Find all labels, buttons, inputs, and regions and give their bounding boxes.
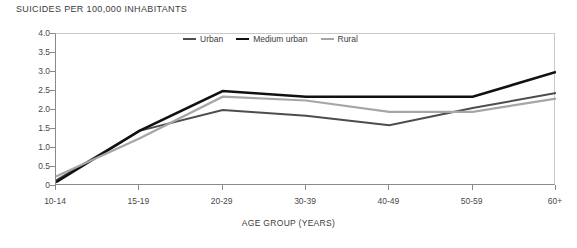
legend-label: Rural [338, 34, 358, 44]
y-tick-label: 1.5 [20, 123, 50, 133]
x-tick-mark [138, 185, 139, 190]
x-tick-label: 15-19 [127, 196, 149, 206]
x-tick-label: 10-14 [44, 196, 66, 206]
series-line [56, 72, 556, 182]
chart-legend: UrbanMedium urbanRural [183, 34, 358, 44]
series-lines [56, 34, 556, 186]
y-tick-label: 0.5 [20, 161, 50, 171]
legend-label: Urban [200, 34, 223, 44]
y-axis-labels: 00.51.01.52.02.53.03.54.0 [16, 33, 50, 185]
x-tick-label: 60+ [548, 196, 562, 206]
y-tick-label: 3.0 [20, 66, 50, 76]
y-tick-label: 1.0 [20, 142, 50, 152]
y-tick-label: 3.5 [20, 47, 50, 57]
x-tick-mark [555, 185, 556, 190]
x-tick-label: 30-39 [294, 196, 316, 206]
legend-swatch [183, 38, 196, 40]
chart-title: SUICIDES PER 100,000 INHABITANTS [16, 4, 187, 14]
x-tick-mark [55, 185, 56, 190]
y-tick-label: 4.0 [20, 28, 50, 38]
x-tick-label: 50-59 [461, 196, 483, 206]
x-tick-mark [388, 185, 389, 190]
x-axis-ticks [55, 185, 555, 191]
chart-figure: SUICIDES PER 100,000 INHABITANTS 00.51.0… [0, 0, 577, 248]
legend-entry: Rural [321, 34, 358, 44]
x-tick-label: 20-29 [211, 196, 233, 206]
legend-entry: Medium urban [236, 34, 307, 44]
legend-label: Medium urban [253, 34, 307, 44]
y-tick-label: 2.0 [20, 104, 50, 114]
x-tick-mark [305, 185, 306, 190]
y-tick-label: 2.5 [20, 85, 50, 95]
x-tick-label: 40-49 [377, 196, 399, 206]
x-tick-mark [472, 185, 473, 190]
plot-area [55, 33, 555, 185]
legend-entry: Urban [183, 34, 223, 44]
legend-swatch [236, 38, 249, 40]
x-axis-title: AGE GROUP (YEARS) [0, 218, 577, 228]
x-tick-mark [222, 185, 223, 190]
legend-swatch [321, 38, 334, 40]
x-axis-labels: 10-1415-1920-2930-3940-4950-5960+ [55, 196, 555, 210]
y-tick-label: 0 [20, 180, 50, 190]
